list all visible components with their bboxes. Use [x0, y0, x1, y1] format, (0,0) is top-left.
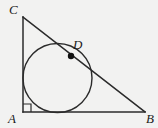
inscribed-circle [23, 44, 92, 113]
vertex-label-d: D [73, 38, 82, 51]
geometry-canvas [0, 0, 158, 128]
segment-cb [23, 17, 145, 112]
point-d-marker [68, 53, 74, 59]
vertex-label-c: C [9, 3, 18, 16]
right-angle-marker [23, 104, 31, 112]
vertex-label-a: A [8, 112, 16, 125]
geometry-figure: C A B D [0, 0, 158, 128]
vertex-label-b: B [146, 112, 154, 125]
